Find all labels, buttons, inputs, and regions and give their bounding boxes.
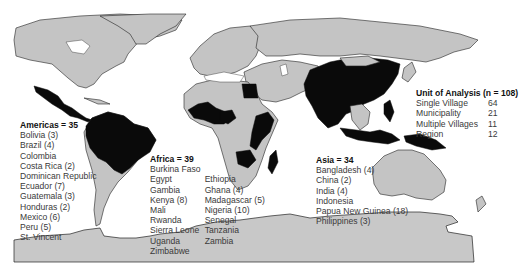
country-label: India (4) [316,186,408,196]
unit-label: Region [416,129,488,139]
country-label: Tanzania [205,225,265,235]
country-label: Rwanda [150,215,201,225]
country-label: Madagascar (5) [205,195,265,205]
russia [250,18,478,62]
country-label: Ethiopia [205,174,265,184]
country-label: Guatemala (3) [20,191,96,201]
country-label: Sierra Leone [150,225,201,235]
country-label: Bangladesh (4) [316,165,408,175]
country-label: China (2) [316,175,408,185]
country-label: Zimbabwe [150,246,201,256]
southeast-asia [350,104,370,130]
americas-heading: Americas = 35 [20,120,96,130]
country-label: Honduras (2) [20,202,96,212]
country-label: Dominican Republic [20,171,96,181]
country-label: Kenya (8) [150,195,201,205]
madagascar [268,150,278,174]
japan [402,62,416,82]
africa-column-2: Ethiopia Ghana (4) Madagascar (5) Nigeri… [205,164,265,256]
africa-legend: Africa = 39 Burkina Faso Egypt Gambia Ke… [150,154,265,256]
country-label: Colombia [20,151,96,161]
country-label: Mexico (6) [20,212,96,222]
caribbean [84,98,110,104]
new-zealand [476,196,486,212]
unit-row: Region 12 [416,129,518,139]
americas-legend: Americas = 35 Bolivia (3) Brazil (4) Col… [20,120,96,242]
country-label: Ghana (4) [205,185,265,195]
country-label: Zambia [205,236,265,246]
asia-heading: Asia = 34 [316,155,408,165]
country-label: Brazil (4) [20,140,96,150]
unit-of-analysis-legend: Unit of Analysis (n = 108) Single Villag… [416,88,518,139]
country-label: Philippines (3) [316,216,408,226]
philippines [384,100,394,122]
unit-label: Single Village [416,98,488,108]
unit-row: Multiple Villages 11 [416,119,518,129]
unit-row: Municipality 21 [416,108,518,118]
country-label: Senegal [205,215,265,225]
egypt [242,84,258,98]
country-label: Peru (5) [20,222,96,232]
country-label: Egypt [150,174,201,184]
country-label: Uganda [150,236,201,246]
unit-heading: Unit of Analysis (n = 108) [416,88,518,98]
country-label: Bolivia (3) [20,130,96,140]
unit-value: 11 [488,119,497,129]
country-label: Burkina Faso [150,164,201,174]
africa-heading: Africa = 39 [150,154,265,164]
unit-value: 12 [488,129,498,139]
country-label: Papua New Guinea (18) [316,206,408,216]
unit-label: Municipality [416,108,488,118]
indonesia [340,128,400,144]
country-label: Indonesia [316,196,408,206]
country-label: Gambia [150,185,201,195]
country-label: Mali [150,205,201,215]
asia-legend: Asia = 34 Bangladesh (4) China (2) India… [316,155,408,226]
mexico-central-america [34,86,92,122]
unit-label: Multiple Villages [416,119,488,129]
country-label: Costa Rica (2) [20,161,96,171]
africa-column-1: Burkina Faso Egypt Gambia Kenya (8) Mali… [150,164,201,256]
unit-row: Single Village 64 [416,98,518,108]
unit-value: 21 [488,108,498,118]
country-label: Nigeria (10) [205,205,265,215]
country-label: St. Vincent [20,232,96,242]
country-label: Ecuador (7) [20,181,96,191]
unit-value: 64 [488,98,498,108]
